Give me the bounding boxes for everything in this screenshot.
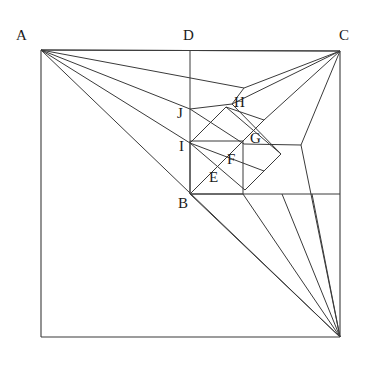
vertex-label-c: C [339, 28, 349, 43]
segment-rot1-e3 [245, 154, 281, 190]
segment-inner-d1 [226, 107, 264, 120]
segment-A-to-J [41, 50, 190, 109]
vertex-label-f: F [227, 152, 235, 167]
segment-Q-to-B [190, 194, 340, 337]
segment-A-to-C [41, 50, 340, 51]
fan-lines-from-c [232, 51, 340, 145]
vertex-label-a: A [16, 28, 27, 43]
vertex-label-d: D [183, 28, 194, 43]
vertex-label-j: J [177, 106, 183, 121]
geometry-figure: ADCJHIGFEB [0, 0, 366, 371]
vertex-label-h: H [234, 95, 245, 110]
segment-C-to-S2 [264, 51, 340, 120]
spiral-squares [190, 88, 301, 194]
segment-C-to-T1 [244, 51, 340, 88]
segment-C-to-H [232, 51, 340, 104]
segment-rot2-e1 [190, 104, 232, 109]
segment-rot2-e3 [190, 109, 244, 144]
vertex-label-e: E [209, 170, 218, 185]
segment-C-to-S1 [301, 51, 340, 145]
vertex-label-b: B [178, 196, 188, 211]
geometry-canvas [0, 0, 366, 371]
segment-Q-to-R2 [282, 194, 340, 337]
vertex-label-g: G [250, 131, 261, 146]
vertex-label-i: I [179, 139, 184, 154]
